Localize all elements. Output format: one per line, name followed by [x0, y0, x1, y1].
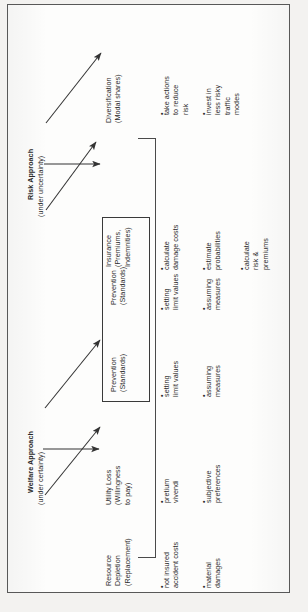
node-insurance-line1: Insurance [104, 227, 113, 267]
bullet-diversification-1-l3: risk [181, 76, 190, 115]
bullet-insurance-3-marker: • [237, 267, 246, 270]
diagram-frame: Risk Approach (under uncertainty) Divers… [7, 4, 290, 593]
bullet-diversification-2-marker: • [199, 112, 208, 115]
bullet-prevention-risk-1-l1: setting [162, 274, 171, 310]
bullet-resource-depletion-2-l2: damages [213, 558, 222, 588]
risk-approach-heading: Risk Approach [26, 149, 35, 200]
risk-arrows [44, 53, 101, 210]
bullet-resource-depletion-2: material damages [204, 558, 223, 588]
bullet-prevention-welfare-1-l2: limit values [171, 361, 180, 397]
bullet-utility-loss-2: subjective preferences [204, 464, 223, 503]
bullet-prevention-welfare-2-marker: • [199, 394, 208, 397]
node-insurance-line3: Indemnities) [123, 227, 132, 267]
bullet-insurance-2-l2: probabilities [213, 231, 222, 270]
bullet-diversification-1: take actions to reduce risk [162, 76, 190, 115]
bullet-insurance-3-l2: risk & [251, 238, 260, 270]
divider-top-tick [138, 138, 155, 139]
bullet-insurance-1-l2: damage costs [171, 225, 180, 270]
node-resource-depletion-label: Resource Depletion (Replacement) [104, 538, 132, 586]
bullet-utility-loss-2-marker: • [199, 500, 208, 503]
node-utility-loss-line3: to pay) [123, 466, 132, 505]
bullet-diversification-2-l4: modes [232, 85, 241, 115]
bullet-resource-depletion-1: not insured accident costs [162, 542, 181, 588]
welfare-approach-title: Welfare Approach [26, 431, 35, 493]
bullet-diversification-1-l2: to reduce [171, 76, 180, 115]
node-diversification-line2: (Modal shares) [113, 74, 122, 123]
bullet-marker: • [157, 500, 166, 503]
bullet-diversification-2-l2: less risky [213, 85, 222, 115]
bullet-marker: • [157, 112, 166, 115]
node-utility-loss-line1: Utility Loss [104, 466, 113, 505]
bullet-prevention-risk-2-l2: measures [213, 278, 222, 310]
bullet-insurance-2: estimate probabilities [204, 231, 223, 270]
node-prevention-welfare-line1: Prevention [109, 354, 118, 392]
node-insurance-line2: (Premiums, [113, 227, 122, 267]
welfare-approach-heading: Welfare Approach [26, 431, 35, 493]
node-resource-depletion-line1: Resource [104, 538, 113, 586]
bullet-insurance-3-l3: premiums [261, 238, 270, 270]
divider-bottom-tick [138, 557, 155, 558]
bullet-prevention-risk-1-marker: • [157, 307, 166, 310]
bullet-prevention-risk-2-marker: • [199, 307, 208, 310]
diagram-page: Risk Approach (under uncertainty) Divers… [0, 0, 308, 612]
bullet-marker: • [199, 394, 208, 397]
bullet-marker: • [199, 307, 208, 310]
bullet-prevention-risk-1: setting limit values [162, 274, 181, 310]
bullet-prevention-welfare-2-l2: measures [213, 365, 222, 397]
welfare-approach-subtitle: (under certainty) [36, 452, 45, 505]
bullet-insurance-3-l1: calculate [242, 238, 251, 270]
bullet-resource-depletion-1-l2: accident costs [171, 542, 180, 588]
column-divider-line [155, 138, 156, 558]
bullet-resource-depletion-2-marker: • [199, 585, 208, 588]
bullet-diversification-2-l1: invest in [204, 85, 213, 115]
node-prevention-risk-line2: (Standards) [118, 267, 127, 305]
bullet-marker: • [237, 267, 246, 270]
bullet-prevention-welfare-1: setting limit values [162, 361, 181, 397]
bullet-insurance-3: calculate risk & premiums [242, 238, 270, 270]
bullet-utility-loss-1-l2: vivendi [171, 479, 180, 503]
bullet-marker: • [199, 500, 208, 503]
bullet-utility-loss-1-marker: • [157, 500, 166, 503]
bullet-resource-depletion-1-l1: not insured [162, 542, 171, 588]
welfare-arrows [43, 340, 100, 495]
bullet-insurance-2-marker: • [199, 267, 208, 270]
bullet-prevention-welfare-1-l1: setting [162, 361, 171, 397]
bullet-prevention-risk-2: assuming measures [204, 278, 223, 310]
bullet-marker: • [157, 394, 166, 397]
bullet-prevention-welfare-2-l1: assuming [204, 365, 213, 397]
bullet-insurance-1-marker: • [157, 267, 166, 270]
bullet-prevention-risk-2-l1: assuming [204, 278, 213, 310]
risk-approach-title: Risk Approach [26, 149, 35, 200]
risk-approach-subtitle: (under uncertainty) [36, 156, 45, 217]
bullet-marker: • [157, 267, 166, 270]
node-diversification-line1: Diversification [104, 74, 113, 123]
bullet-diversification-1-marker: • [157, 112, 166, 115]
node-utility-loss-label: Utility Loss (Willingness to pay) [104, 466, 132, 505]
node-insurance-label: Insurance (Premiums, Indemnities) [104, 227, 132, 267]
node-resource-depletion-line3: (Replacement) [123, 538, 132, 586]
bullet-utility-loss-2-l2: preferences [213, 464, 222, 503]
bullet-diversification-2-l3: traffic [223, 85, 232, 115]
bullet-prevention-welfare-2: assuming measures [204, 365, 223, 397]
node-prevention-risk-line1: Prevention [109, 267, 118, 305]
bullet-diversification-1-l1: take actions [162, 76, 171, 115]
bullet-utility-loss-2-l1: subjective [204, 464, 213, 503]
bullet-marker: • [157, 307, 166, 310]
bullet-insurance-1-l1: calculate [162, 225, 171, 270]
bullet-marker: • [199, 112, 208, 115]
node-prevention-welfare-label: Prevention (Standards) [109, 354, 128, 392]
bullet-diversification-2: invest in less risky traffic modes [204, 85, 242, 115]
bullet-insurance-2-l1: estimate [204, 231, 213, 270]
node-diversification-label: Diversification (Modal shares) [104, 74, 123, 123]
bullet-marker: • [199, 585, 208, 588]
bullet-prevention-risk-1-l2: limit values [171, 274, 180, 310]
bullet-resource-depletion-1-marker: • [157, 585, 166, 588]
node-prevention-risk-label: Prevention (Standards) [109, 267, 128, 305]
welfare-approach-subheading: (under certainty) [36, 452, 45, 505]
risk-approach-subheading: (under uncertainty) [36, 156, 45, 217]
bullet-prevention-welfare-1-marker: • [157, 394, 166, 397]
bullet-marker: • [157, 585, 166, 588]
bullet-marker: • [199, 267, 208, 270]
bullet-resource-depletion-2-l1: material [204, 558, 213, 588]
node-utility-loss-line2: (Willingness [113, 466, 122, 505]
